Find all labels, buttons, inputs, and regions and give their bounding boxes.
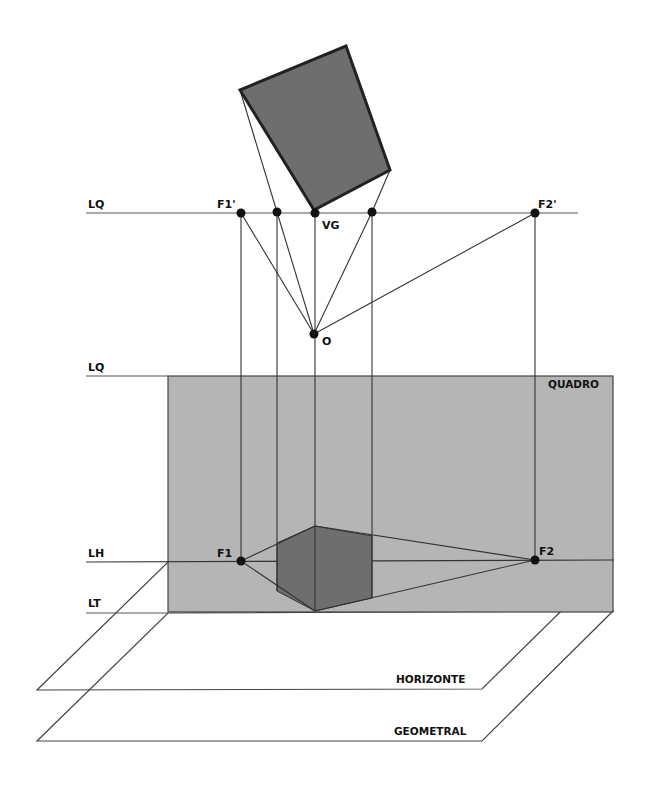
label-f1-prime: F1' bbox=[217, 198, 236, 211]
plan-rectangle bbox=[240, 46, 390, 210]
point-vg bbox=[311, 209, 320, 218]
o-ray-a bbox=[277, 212, 314, 334]
label-lh: LH bbox=[88, 547, 104, 560]
point-b bbox=[368, 208, 377, 217]
geometral-plane bbox=[37, 611, 613, 741]
label-lt: LT bbox=[88, 597, 101, 610]
perspective-diagram: LQ LQ LH LT F1' F2' VG O F1 F2 QUADRO HO… bbox=[0, 0, 648, 789]
point-f1-prime bbox=[237, 209, 246, 218]
label-f1: F1 bbox=[217, 547, 232, 560]
quadro-plane bbox=[168, 376, 613, 612]
label-vg: VG bbox=[322, 219, 340, 232]
label-horizonte: HORIZONTE bbox=[396, 673, 465, 685]
point-o bbox=[310, 330, 319, 339]
o-ray-f2prime bbox=[314, 213, 535, 334]
label-f2-prime: F2' bbox=[538, 198, 557, 211]
label-lq-mid: LQ bbox=[88, 361, 104, 374]
label-o: O bbox=[322, 335, 331, 348]
point-f1 bbox=[237, 557, 246, 566]
label-f2: F2 bbox=[539, 545, 554, 558]
label-quadro: QUADRO bbox=[548, 378, 599, 390]
point-a bbox=[273, 208, 282, 217]
label-geometral: GEOMETRAL bbox=[394, 725, 467, 737]
label-lq-top: LQ bbox=[88, 198, 104, 211]
perspective-shape bbox=[277, 526, 372, 611]
